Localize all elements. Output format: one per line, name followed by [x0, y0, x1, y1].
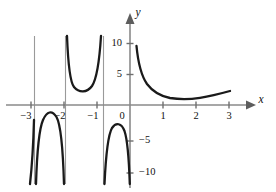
x-tick-label-1: 1: [160, 110, 165, 121]
y-tick-label--5: −5: [139, 134, 150, 145]
curve-branch-left-inverted-u: [36, 112, 64, 184]
curve-branch-far-left-descending: [30, 120, 34, 184]
x-axis-label: x: [257, 93, 264, 105]
curve-branch-lower-middle-inverted-u: [105, 124, 130, 184]
x-axis-arrowhead: [246, 101, 256, 110]
tick-label-group: −3 −2 −1 0 1 2 3 10 5 −5 −10: [20, 37, 231, 178]
x-tick-label-2: 2: [193, 110, 198, 121]
y-tick-label-10: 10: [112, 37, 123, 48]
x-tick-label-3: 3: [226, 110, 231, 121]
curve-branch-right-decreasing: [137, 46, 231, 99]
y-tick-label-5: 5: [117, 68, 122, 79]
y-axis-arrowhead: [126, 13, 135, 24]
y-axis-label: y: [134, 6, 141, 19]
y-tick-label--10: −10: [139, 166, 155, 177]
x-tick-label--3: −3: [20, 110, 31, 121]
x-tick-label--1: −1: [87, 110, 98, 121]
curve-branch-middle-u: [67, 36, 101, 91]
x-tick-label-0: 0: [119, 110, 124, 121]
plot-canvas: −3 −2 −1 0 1 2 3 10 5 −5 −10 x y: [0, 0, 276, 192]
axes-group: [6, 13, 256, 188]
graph-figure: −3 −2 −1 0 1 2 3 10 5 −5 −10 x y: [0, 0, 276, 192]
